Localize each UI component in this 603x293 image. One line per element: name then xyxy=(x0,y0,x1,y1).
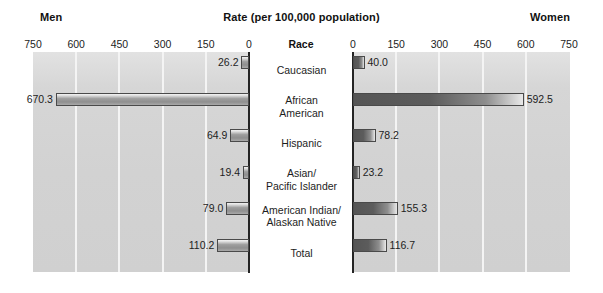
bar-men xyxy=(243,166,249,179)
bar-women xyxy=(353,129,376,142)
chart-row: Asian/ Pacific Islander19.423.2 xyxy=(0,162,603,198)
bar-women xyxy=(353,202,398,215)
value-label-men: 79.0 xyxy=(203,202,223,215)
chart-row: American Indian/ Alaskan Native79.0155.3 xyxy=(0,198,603,234)
bar-men xyxy=(230,129,249,142)
chart-row: Caucasian26.240.0 xyxy=(0,52,603,88)
tick-label-women-450: 450 xyxy=(474,38,492,50)
chart-row: Total110.2116.7 xyxy=(0,235,603,271)
bar-women xyxy=(353,166,360,179)
bar-women xyxy=(353,239,387,252)
category-label: Hispanic xyxy=(249,137,354,150)
value-label-women: 155.3 xyxy=(401,202,427,215)
tick-label-men-300: 300 xyxy=(154,38,172,50)
value-label-women: 40.0 xyxy=(368,56,388,69)
chart-row: Hispanic64.978.2 xyxy=(0,125,603,161)
value-label-men: 26.2 xyxy=(218,56,238,69)
category-label: Asian/ Pacific Islander xyxy=(249,167,354,192)
value-label-men: 110.2 xyxy=(189,239,215,252)
chart-row: African American670.3592.5 xyxy=(0,89,603,125)
category-label: American Indian/ Alaskan Native xyxy=(249,204,354,229)
value-label-women: 23.2 xyxy=(363,166,383,179)
value-label-men: 670.3 xyxy=(27,93,53,106)
tick-label-women-150: 150 xyxy=(387,38,405,50)
category-label: Caucasian xyxy=(249,64,354,77)
value-label-women: 592.5 xyxy=(527,93,553,106)
chart-title: Rate (per 100,000 population) xyxy=(0,11,603,23)
chart-header-women: Women xyxy=(530,11,570,23)
category-column-header: Race xyxy=(288,38,313,50)
value-label-women: 78.2 xyxy=(379,129,399,142)
value-label-men: 64.9 xyxy=(207,129,227,142)
bar-women xyxy=(353,56,365,69)
tick-label-men-150: 150 xyxy=(197,38,215,50)
tick-label-men-0: 0 xyxy=(246,38,252,50)
value-label-women: 116.7 xyxy=(390,239,416,252)
tick-label-men-750: 750 xyxy=(24,38,42,50)
tick-label-women-600: 600 xyxy=(517,38,535,50)
category-label: African American xyxy=(249,94,354,119)
tick-label-women-750: 750 xyxy=(560,38,578,50)
bidirectional-bar-chart: Men Rate (per 100,000 population) Women … xyxy=(0,0,603,293)
bar-men xyxy=(241,56,249,69)
category-label: Total xyxy=(249,247,354,260)
tick-label-women-300: 300 xyxy=(431,38,449,50)
tick-label-men-600: 600 xyxy=(67,38,85,50)
bar-men xyxy=(56,93,249,106)
tick-label-men-450: 450 xyxy=(111,38,129,50)
value-label-men: 19.4 xyxy=(220,166,240,179)
bar-women xyxy=(353,93,524,106)
bar-men xyxy=(226,202,249,215)
tick-label-women-0: 0 xyxy=(350,38,356,50)
bar-men xyxy=(217,239,249,252)
